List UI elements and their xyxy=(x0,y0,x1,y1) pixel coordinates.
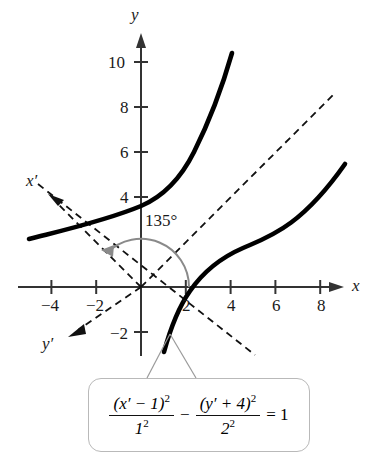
x-axis xyxy=(18,280,344,294)
hyperbola-branch-upper-left xyxy=(29,53,232,239)
equation: (x′ − 1)2 12 − (y′ + 4)2 22 = 1 xyxy=(106,392,291,438)
second-denominator-exponent: 2 xyxy=(229,417,235,429)
y-prime-axis xyxy=(68,287,141,337)
y-prime-axis-label: y′ xyxy=(42,335,53,352)
second-fraction: (y′ + 4)2 22 xyxy=(196,392,261,438)
second-numerator: (y′ + 4)2 xyxy=(196,392,261,415)
y-axis xyxy=(134,33,148,356)
hyperbola-branch-lower-right xyxy=(164,164,345,352)
x-tick-label--4: −4 xyxy=(41,297,59,314)
x-tick-label-2: 2 xyxy=(182,297,191,314)
first-numerator-exponent: 2 xyxy=(165,392,171,404)
x-axis-label: x xyxy=(352,277,360,294)
x-tick-label-6: 6 xyxy=(272,297,281,314)
x-prime-axis-label: x′ xyxy=(26,172,37,189)
equals-one: = 1 xyxy=(266,405,288,425)
first-denominator-exponent: 2 xyxy=(143,417,149,429)
y-tick-label--2: −2 xyxy=(110,325,128,342)
minus-operator: − xyxy=(180,405,190,425)
second-denominator: 22 xyxy=(196,415,261,439)
x-tick-label-8: 8 xyxy=(317,297,326,314)
x-tick-label--2: −2 xyxy=(86,297,104,314)
angle-arc xyxy=(101,239,189,287)
angle-label: 135° xyxy=(145,212,177,229)
x-tick-label-4: 4 xyxy=(227,297,236,314)
first-fraction: (x′ − 1)2 12 xyxy=(109,392,174,438)
y-tick-label-10: 10 xyxy=(108,54,125,71)
equation-callout-box: (x′ − 1)2 12 − (y′ + 4)2 22 = 1 xyxy=(88,378,310,452)
y-tick-label-8: 8 xyxy=(120,99,129,116)
y-axis-label: y xyxy=(131,6,139,23)
first-numerator: (x′ − 1)2 xyxy=(109,392,174,415)
first-denominator: 12 xyxy=(109,415,174,439)
callout-leader xyxy=(147,334,196,378)
y-tick-label-4: 4 xyxy=(120,189,129,206)
y-tick-label-6: 6 xyxy=(120,144,129,161)
second-numerator-exponent: 2 xyxy=(251,392,257,404)
